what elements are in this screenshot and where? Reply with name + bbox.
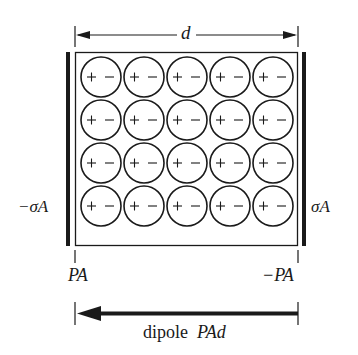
polarized-molecule <box>253 143 293 183</box>
polarized-molecule <box>124 57 164 97</box>
width-label: d <box>181 22 191 44</box>
right-plate-charge: σA <box>311 197 330 217</box>
dipole-label: dipole PAd <box>143 322 226 343</box>
polarized-molecule <box>81 57 121 97</box>
polarized-molecule <box>210 100 250 140</box>
polarized-molecule <box>81 100 121 140</box>
polarized-molecule <box>167 143 207 183</box>
dielectric-slab <box>76 53 298 246</box>
polarized-molecule <box>253 100 293 140</box>
left-plate <box>66 52 70 246</box>
dipole-label-math: PAd <box>197 322 226 342</box>
polarized-molecule <box>124 143 164 183</box>
polarized-molecule <box>81 143 121 183</box>
polarized-molecule <box>253 57 293 97</box>
polarized-molecule <box>124 100 164 140</box>
polarized-molecule <box>210 143 250 183</box>
right-surface-charge: −PA <box>262 265 294 286</box>
polarized-molecule <box>210 186 250 226</box>
diagram-canvas <box>0 0 358 355</box>
left-surface-charge: PA <box>68 265 88 286</box>
polarized-molecule <box>124 186 164 226</box>
right-plate <box>302 52 306 246</box>
surface-ticks <box>75 250 298 263</box>
polarized-molecule <box>81 186 121 226</box>
left-plate-charge: −σA <box>18 197 48 217</box>
polarized-molecule <box>167 100 207 140</box>
molecule-grid <box>81 57 293 226</box>
polarized-molecule <box>210 57 250 97</box>
polarized-molecule <box>167 57 207 97</box>
polarized-molecule <box>167 186 207 226</box>
dipole-label-text: dipole <box>143 322 188 342</box>
polarized-molecule <box>253 186 293 226</box>
